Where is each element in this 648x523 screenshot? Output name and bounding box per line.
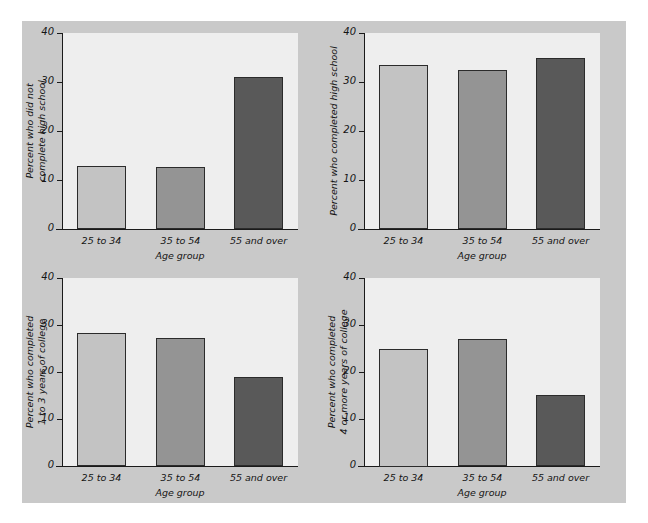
x-axis-title: Age group [364, 250, 600, 261]
x-axis-category-label: 25 to 34 [364, 472, 443, 483]
x-axis-line [358, 229, 600, 230]
y-axis-tick [57, 466, 62, 467]
bar-3 [234, 77, 283, 229]
bar-3 [234, 377, 283, 466]
x-axis-line [56, 466, 298, 467]
x-axis-category-label: 25 to 34 [364, 235, 443, 246]
x-axis-category-label: 35 to 54 [141, 472, 220, 483]
x-axis-category-label: 25 to 34 [62, 235, 141, 246]
y-axis-title: Percent who completed 4 or more years of… [326, 273, 350, 471]
y-axis-title: Percent who completed 1 to 3 years of co… [24, 273, 48, 471]
y-axis-tick [57, 419, 62, 420]
y-axis-tick [57, 33, 62, 34]
bar-2 [458, 70, 507, 229]
y-axis-tick [359, 372, 364, 373]
x-axis-category-label: 35 to 54 [141, 235, 220, 246]
bar-2 [156, 338, 205, 466]
x-axis-category-label: 25 to 34 [62, 472, 141, 483]
figure-canvas: 01020304025 to 3435 to 5455 and overAge … [0, 0, 648, 523]
x-axis-title: Age group [62, 250, 298, 261]
chart-panel-3: 01020304025 to 3435 to 5455 and overAge … [22, 266, 324, 503]
y-axis-tick [57, 229, 62, 230]
chart-panel-1: 01020304025 to 3435 to 5455 and overAge … [22, 21, 324, 266]
y-axis-tick [359, 229, 364, 230]
bar-1 [77, 166, 126, 229]
y-axis-tick [57, 131, 62, 132]
y-axis-tick [359, 180, 364, 181]
y-axis-tick [359, 419, 364, 420]
y-axis-tick [359, 131, 364, 132]
y-axis-line [62, 33, 63, 230]
y-axis-tick [359, 466, 364, 467]
bar-3 [536, 58, 585, 229]
chart-panel-2: 01020304025 to 3435 to 5455 and overAge … [324, 21, 626, 266]
y-axis-tick [57, 325, 62, 326]
y-axis-tick [57, 180, 62, 181]
y-axis-title: Percent who did not complete high school [24, 28, 48, 234]
y-axis-tick [57, 278, 62, 279]
x-axis-title: Age group [364, 487, 600, 498]
x-axis-category-label: 55 and over [219, 472, 298, 483]
y-axis-tick [359, 33, 364, 34]
bar-1 [379, 65, 428, 229]
x-axis-title: Age group [62, 487, 298, 498]
bar-1 [379, 349, 428, 467]
y-axis-tick [359, 325, 364, 326]
x-axis-category-label: 55 and over [521, 472, 600, 483]
y-axis-tick [359, 278, 364, 279]
chart-panel-4: 01020304025 to 3435 to 5455 and overAge … [324, 266, 626, 503]
y-axis-title: Percent who completed high school [328, 28, 340, 234]
y-axis-tick [57, 82, 62, 83]
y-axis-line [364, 278, 365, 467]
bar-2 [156, 167, 205, 229]
x-axis-category-label: 35 to 54 [443, 235, 522, 246]
bar-1 [77, 333, 126, 466]
y-axis-tick [57, 372, 62, 373]
bar-3 [536, 395, 585, 466]
y-axis-tick [359, 82, 364, 83]
bar-2 [458, 339, 507, 466]
x-axis-category-label: 55 and over [219, 235, 298, 246]
y-axis-line [62, 278, 63, 467]
y-axis-line [364, 33, 365, 230]
x-axis-category-label: 35 to 54 [443, 472, 522, 483]
x-axis-category-label: 55 and over [521, 235, 600, 246]
x-axis-line [56, 229, 298, 230]
